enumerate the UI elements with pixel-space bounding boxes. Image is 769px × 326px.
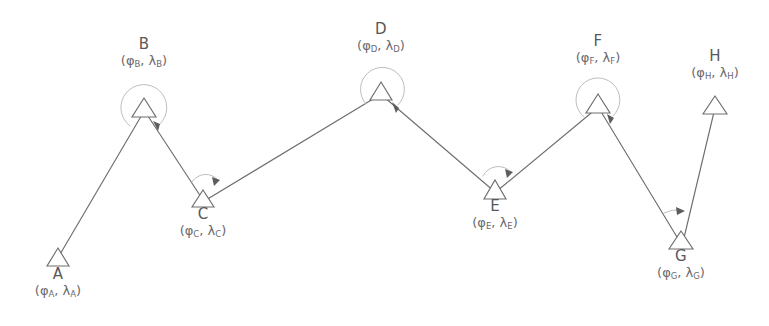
traverse-svg-canvas xyxy=(0,0,769,326)
traverse-legs xyxy=(59,96,714,256)
station-marker-h[interactable] xyxy=(703,96,727,114)
station-marker-a[interactable] xyxy=(47,248,69,266)
leg-c-d xyxy=(206,96,378,200)
angle-arrow-station-d xyxy=(392,102,399,113)
station-marker-b[interactable] xyxy=(132,98,156,117)
leg-g-h xyxy=(683,112,714,242)
traverse-diagram: A (φA, λA) B (φB, λB) C (φC, λC) D (φD, … xyxy=(0,0,769,326)
station-marker-f[interactable] xyxy=(586,94,610,113)
leg-b-c xyxy=(146,113,203,200)
leg-f-g xyxy=(600,110,680,242)
station-marker-g[interactable] xyxy=(669,231,693,249)
angle-arrow-station-g xyxy=(676,207,685,215)
leg-e-f xyxy=(497,109,596,191)
station-marker-d[interactable] xyxy=(370,82,392,100)
station-marker-c[interactable] xyxy=(192,190,214,207)
leg-d-e xyxy=(384,97,495,192)
leg-a-b xyxy=(59,113,143,256)
station-markers xyxy=(47,82,727,266)
station-marker-e[interactable] xyxy=(484,180,506,199)
